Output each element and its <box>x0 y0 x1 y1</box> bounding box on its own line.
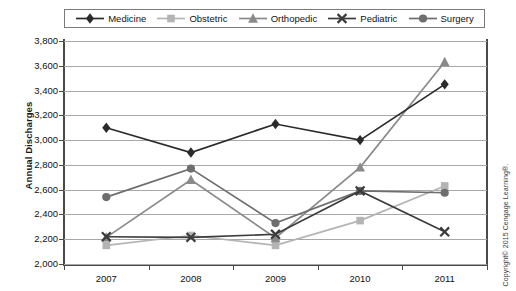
legend-item-medicine[interactable]: Medicine <box>75 12 146 25</box>
data-point-marker <box>187 165 195 173</box>
legend-item-surgery[interactable]: Surgery <box>408 12 474 25</box>
y-axis-tick-label: 3,800 <box>20 35 58 46</box>
data-point-marker <box>440 57 450 66</box>
y-axis-tick-label: 3,000 <box>20 134 58 145</box>
series-medicine <box>102 79 449 158</box>
data-point-marker <box>356 135 364 145</box>
series-layer <box>64 41 487 264</box>
series-line <box>106 84 444 152</box>
data-point-marker <box>271 219 279 227</box>
x-axis-tick-label: 2008 <box>161 273 221 284</box>
y-axis-tick-mark <box>59 190 63 191</box>
series-surgery <box>102 165 449 228</box>
y-axis-tick-label: 2,800 <box>20 159 58 170</box>
data-point-marker <box>187 147 195 157</box>
x-axis-tick-label: 2010 <box>330 273 390 284</box>
diamond-marker <box>75 12 105 25</box>
data-point-marker <box>271 119 279 129</box>
y-axis-tick-mark <box>59 41 63 42</box>
x-axis-tick-mark <box>233 265 234 270</box>
gridline <box>64 264 487 265</box>
circle-marker <box>408 12 438 25</box>
chart-legend: MedicineObstetricOrthopedicPediatricSurg… <box>64 9 485 28</box>
x-axis-tick-mark <box>487 265 488 270</box>
legend-item-pediatric[interactable]: Pediatric <box>327 12 397 25</box>
y-axis-tick-mark <box>59 264 63 265</box>
chart-figure: Annual Discharges Copyright© 2015 Cengag… <box>0 0 516 291</box>
y-axis-tick-mark <box>59 239 63 240</box>
y-axis-tick-label: 2,400 <box>20 208 58 219</box>
legend-item-label: Pediatric <box>360 14 397 24</box>
y-axis-tick-mark <box>59 91 63 92</box>
y-axis-tick-mark <box>59 115 63 116</box>
data-point-marker <box>441 79 449 89</box>
legend-item-label: Obstetric <box>189 14 227 24</box>
y-axis-tick-label: 2,200 <box>20 233 58 244</box>
square-marker <box>156 12 186 25</box>
x-axis-tick-mark <box>149 265 150 270</box>
triangle-marker <box>238 12 268 25</box>
x-axis-tick-label: 2011 <box>415 273 475 284</box>
series-line <box>106 169 444 224</box>
y-axis-tick-mark <box>59 165 63 166</box>
y-axis-tick-mark <box>59 140 63 141</box>
legend-item-obstetric[interactable]: Obstetric <box>156 12 227 25</box>
data-point-marker <box>272 242 280 250</box>
x-axis-tick-mark <box>402 265 403 270</box>
data-point-marker <box>356 217 364 225</box>
data-point-marker <box>441 182 449 190</box>
legend-item-label: Surgery <box>441 14 474 24</box>
y-axis-tick-label: 2,600 <box>20 184 58 195</box>
series-orthopedic <box>101 57 449 242</box>
y-axis-tick-mark <box>59 66 63 67</box>
x-axis-tick-label: 2009 <box>246 273 306 284</box>
data-point-marker <box>186 175 196 184</box>
y-axis-tick-mark <box>59 214 63 215</box>
series-line <box>106 62 444 238</box>
y-axis-tick-label: 2,000 <box>20 258 58 269</box>
plot-area <box>64 41 487 264</box>
data-point-marker <box>103 242 111 250</box>
data-point-marker <box>440 227 449 236</box>
legend-item-label: Orthopedic <box>271 14 317 24</box>
x-axis-tick-label: 2007 <box>76 273 136 284</box>
data-point-marker <box>102 193 110 201</box>
data-point-marker <box>102 123 110 133</box>
y-axis-tick-label: 3,200 <box>20 109 58 120</box>
y-axis-tick-label: 3,400 <box>20 85 58 96</box>
series-line <box>106 191 444 237</box>
x-axis-tick-mark <box>64 265 65 270</box>
copyright-notice: Copyright© 2015 Cengage Learning®. <box>502 127 509 287</box>
series-pediatric <box>102 187 449 242</box>
legend-item-label: Medicine <box>108 14 146 24</box>
legend-item-orthopedic[interactable]: Orthopedic <box>238 12 317 25</box>
y-axis-tick-label: 3,600 <box>20 60 58 71</box>
x-marker <box>327 12 357 25</box>
x-axis-tick-mark <box>318 265 319 270</box>
data-point-marker <box>441 189 449 197</box>
